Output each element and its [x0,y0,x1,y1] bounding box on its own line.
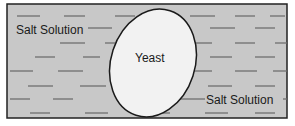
osmosis-diagram: Salt Solution Yeast Salt Solution [0,0,295,126]
yeast-label: Yeast [135,51,165,65]
salt-solution-label-top: Salt Solution [16,23,83,37]
salt-solution-label-bottom: Salt Solution [206,93,273,107]
